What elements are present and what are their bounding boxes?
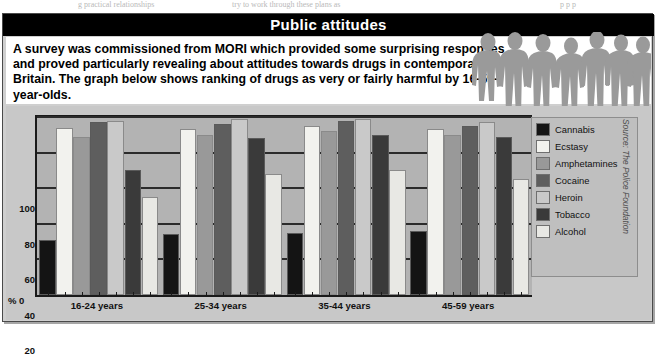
bar-cannabis <box>287 233 304 295</box>
bar-tobacco <box>125 170 142 295</box>
y-axis-tick-label: 20 <box>9 345 35 356</box>
bar-heroin <box>107 121 124 295</box>
bar-ecstasy <box>427 129 444 295</box>
source-credit: Source: The Police Foundation <box>621 119 631 269</box>
bar-cocaine <box>214 124 231 295</box>
legend-item-label: Heroin <box>555 191 583 204</box>
legend-item-label: Cocaine <box>555 174 589 187</box>
bleed-text-fragment: g practical relationships <box>78 0 154 9</box>
legend-swatch-icon <box>536 157 550 170</box>
y-axis-tick-label: 40 <box>9 310 35 321</box>
x-axis-label: 16-24 years <box>35 300 159 311</box>
bar-tobacco <box>496 137 513 295</box>
bar-heroin <box>355 119 372 295</box>
legend-swatch-icon <box>536 174 550 187</box>
bar-cannabis <box>39 240 56 295</box>
intro-body-text: A survey was commissioned from MORI whic… <box>6 37 520 103</box>
bar-cocaine <box>462 126 479 295</box>
x-axis-labels: 16-24 years25-34 years35-44 years45-59 y… <box>35 297 532 319</box>
x-axis-label: 35-44 years <box>283 300 407 311</box>
page-title: Public attitudes <box>3 16 654 33</box>
bar-alcohol <box>142 197 159 295</box>
intro-panel: A survey was commissioned from MORI whic… <box>6 37 651 104</box>
bar-group <box>37 117 161 295</box>
article-panel: Public attitudes A survey was commission… <box>2 13 653 322</box>
bar-heroin <box>231 119 248 295</box>
bar-amphetamines <box>73 137 90 295</box>
bar-groups <box>37 117 532 295</box>
legend-swatch-icon <box>536 123 550 136</box>
page-bleed-text: g practical relationshipstry to work thr… <box>0 0 655 13</box>
x-axis-label: 25-34 years <box>159 300 283 311</box>
bar-amphetamines <box>321 131 338 295</box>
bar-group <box>285 117 409 295</box>
title-banner: Public attitudes <box>3 14 654 36</box>
bar-cannabis <box>163 234 180 295</box>
bar-heroin <box>479 122 496 295</box>
bar-tobacco <box>372 135 389 295</box>
legend-swatch-icon <box>536 225 550 238</box>
bar-amphetamines <box>197 135 214 295</box>
legend-item-label: Amphetamines <box>555 157 618 170</box>
legend-item-label: Alcohol <box>555 225 586 238</box>
bar-alcohol <box>265 174 282 295</box>
legend-item-label: Tobacco <box>555 208 590 221</box>
legend-swatch-icon <box>536 140 550 153</box>
bar-group <box>161 117 285 295</box>
legend-item-label: Ecstasy <box>555 140 588 153</box>
y-axis-tick-label: 80 <box>9 239 35 250</box>
legend-item-label: Cannabis <box>555 123 595 136</box>
legend-swatch-icon <box>536 191 550 204</box>
bar-ecstasy <box>56 128 73 295</box>
bar-cocaine <box>338 121 355 295</box>
bar-ecstasy <box>304 126 321 295</box>
bleed-text-fragment: try to work through these plans as <box>232 0 340 9</box>
y-axis-zero-label: % 0 <box>8 295 24 306</box>
bar-alcohol <box>513 179 530 295</box>
bar-amphetamines <box>444 135 461 295</box>
legend-swatch-icon <box>536 208 550 221</box>
bar-ecstasy <box>180 129 197 295</box>
plot-area <box>35 117 532 295</box>
y-axis: 20406080100 <box>6 198 35 358</box>
bleed-text-fragment: p p p <box>560 0 576 9</box>
bar-group <box>408 117 532 295</box>
y-axis-tick-label: 60 <box>9 274 35 285</box>
bar-alcohol <box>389 170 406 295</box>
chart-panel: 20406080100 % 0 16-24 years25-34 years35… <box>6 106 651 320</box>
bar-cannabis <box>410 231 427 295</box>
bar-tobacco <box>248 138 265 295</box>
x-axis-label: 45-59 years <box>406 300 530 311</box>
y-axis-tick-label: 100 <box>9 203 35 214</box>
bar-cocaine <box>90 122 107 295</box>
